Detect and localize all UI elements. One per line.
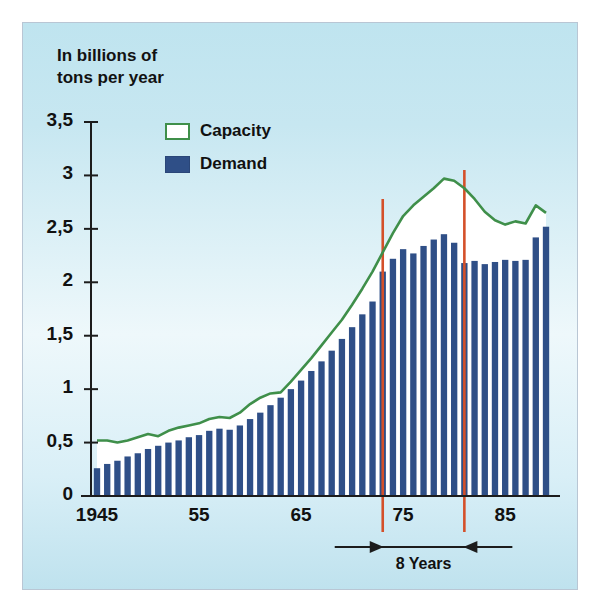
demand-bar bbox=[298, 381, 304, 496]
demand-bar bbox=[237, 425, 243, 496]
demand-bar bbox=[441, 234, 447, 496]
demand-bar bbox=[94, 468, 100, 496]
x-axis-tick-label: 85 bbox=[475, 504, 535, 526]
demand-bar bbox=[257, 413, 263, 496]
x-axis-tick-label: 1945 bbox=[67, 504, 127, 526]
demand-bar bbox=[288, 389, 294, 496]
demand-bar bbox=[206, 431, 212, 496]
demand-bar bbox=[492, 262, 498, 496]
demand-bar bbox=[420, 246, 426, 496]
demand-bar bbox=[247, 419, 253, 496]
y-axis-tick-label: 0,5 bbox=[17, 430, 73, 452]
demand-bar bbox=[369, 302, 375, 496]
x-axis-tick-label: 75 bbox=[373, 504, 433, 526]
span-arrow-label: 8 Years bbox=[364, 555, 484, 573]
demand-bar bbox=[114, 461, 120, 496]
demand-bar bbox=[471, 261, 477, 496]
x-axis-tick-label: 55 bbox=[169, 504, 229, 526]
y-axis-tick-label: 0 bbox=[17, 483, 73, 505]
demand-bar bbox=[267, 405, 273, 496]
demand-bar bbox=[533, 237, 539, 496]
demand-bar bbox=[155, 446, 161, 496]
y-axis-tick-label: 1,5 bbox=[17, 323, 73, 345]
y-axis-tick-label: 3 bbox=[17, 162, 73, 184]
demand-bar bbox=[196, 435, 202, 496]
demand-bar bbox=[329, 351, 335, 496]
demand-bar bbox=[512, 261, 518, 496]
demand-bar bbox=[145, 449, 151, 496]
demand-bar bbox=[359, 314, 365, 496]
y-axis-tick-label: 3,5 bbox=[17, 109, 73, 131]
demand-bar bbox=[186, 437, 192, 496]
y-axis-tick-label: 2,5 bbox=[17, 216, 73, 238]
span-arrow-head-left bbox=[370, 541, 384, 553]
demand-bar bbox=[175, 440, 181, 496]
demand-bar bbox=[308, 371, 314, 496]
demand-bar bbox=[278, 398, 284, 496]
demand-bar bbox=[124, 456, 130, 496]
demand-bar bbox=[318, 361, 324, 496]
demand-bar bbox=[390, 259, 396, 496]
demand-bar bbox=[431, 240, 437, 496]
span-arrow bbox=[335, 541, 513, 553]
demand-bar bbox=[165, 443, 171, 496]
demand-bar bbox=[104, 464, 110, 496]
demand-bar bbox=[410, 253, 416, 496]
demand-bar bbox=[216, 429, 222, 496]
demand-bar bbox=[502, 260, 508, 496]
demand-bar bbox=[349, 327, 355, 496]
demand-bar bbox=[227, 430, 233, 496]
demand-bar bbox=[135, 453, 141, 496]
span-arrow-head-right bbox=[463, 541, 477, 553]
demand-bar bbox=[543, 227, 549, 496]
demand-bar bbox=[451, 243, 457, 496]
x-axis-tick-label: 65 bbox=[271, 504, 331, 526]
y-axis-tick-label: 2 bbox=[17, 269, 73, 291]
chart-figure: In billions of tons per year Capacity De… bbox=[22, 22, 578, 590]
demand-bar bbox=[400, 249, 406, 496]
demand-bar bbox=[522, 260, 528, 496]
demand-bar bbox=[482, 264, 488, 496]
y-axis-tick-label: 1 bbox=[17, 376, 73, 398]
demand-bar bbox=[339, 339, 345, 496]
